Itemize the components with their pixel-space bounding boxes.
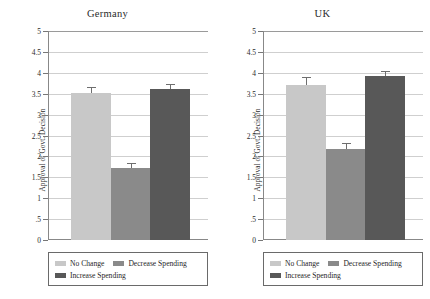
- y-tick-label: 4.5: [32, 47, 41, 56]
- panel-germany: Germany Approval of Govt. Decision 54.54…: [0, 0, 215, 299]
- legend-label: No Change: [70, 259, 104, 268]
- legend-row: No Change Decrease Spending: [270, 257, 416, 269]
- bar: [286, 85, 326, 240]
- y-tick-label: 3: [252, 110, 256, 119]
- panel-uk: UK Approval of Govt. Decision 54.543.532…: [215, 0, 430, 299]
- legend-label: Increase Spending: [285, 271, 341, 280]
- y-tick-label: 1: [37, 194, 41, 203]
- legend-swatch-icon: [270, 261, 281, 266]
- error-bar-cap: [302, 77, 311, 78]
- error-bar-cap: [87, 87, 96, 88]
- y-tick-label: 1.5: [247, 173, 256, 182]
- gridline: [263, 52, 423, 53]
- two-panel-bar-chart: Germany Approval of Govt. Decision 54.54…: [0, 0, 430, 299]
- gridline: [48, 31, 208, 32]
- y-tick-mark: [43, 240, 48, 241]
- bar: [111, 168, 151, 240]
- panel-title: Germany: [0, 8, 215, 19]
- legend-row: No Change Decrease Spending: [55, 257, 201, 269]
- plot-area: 54.543.532.521.51.50: [48, 31, 208, 240]
- error-bar-cap: [166, 84, 175, 85]
- legend-item: No Change: [270, 259, 319, 268]
- legend-item: No Change: [55, 259, 104, 268]
- legend-swatch-icon: [113, 261, 124, 266]
- error-bar: [306, 77, 307, 85]
- y-tick-label: 4: [37, 68, 41, 77]
- legend-label: Decrease Spending: [343, 259, 401, 268]
- gridline: [263, 31, 423, 32]
- gridline: [263, 73, 423, 74]
- legend-label: Decrease Spending: [128, 259, 186, 268]
- panel-title: UK: [215, 8, 430, 19]
- y-tick-label: 3: [37, 110, 41, 119]
- y-tick-mark: [258, 240, 263, 241]
- y-tick-label: .5: [35, 215, 41, 224]
- y-tick-label: 0: [252, 236, 256, 245]
- legend-label: No Change: [285, 259, 319, 268]
- error-bar-cap: [127, 163, 136, 164]
- legend-label: Increase Spending: [70, 271, 126, 280]
- y-tick-label: 1.5: [32, 173, 41, 182]
- legend-row: Increase Spending: [55, 269, 201, 281]
- y-axis-line: [48, 31, 49, 240]
- error-bar-cap: [381, 71, 390, 72]
- y-tick-label: 4: [252, 68, 256, 77]
- legend-item: Increase Spending: [55, 271, 126, 280]
- y-tick-label: 0: [37, 236, 41, 245]
- legend: No Change Decrease Spending Increase Spe…: [48, 252, 208, 286]
- legend-swatch-icon: [270, 273, 281, 278]
- legend-swatch-icon: [55, 261, 66, 266]
- legend-swatch-icon: [55, 273, 66, 278]
- y-tick-label: 1: [252, 194, 256, 203]
- plot-area: 54.543.532.521.51.50: [263, 31, 423, 240]
- legend-swatch-icon: [328, 261, 339, 266]
- y-tick-label: 2.5: [247, 131, 256, 140]
- y-tick-label: .5: [250, 215, 256, 224]
- bar: [150, 89, 190, 240]
- bar: [71, 93, 111, 240]
- legend-row: Increase Spending: [270, 269, 416, 281]
- y-tick-label: 4.5: [247, 47, 256, 56]
- bar: [326, 149, 366, 240]
- bar: [365, 76, 405, 240]
- y-tick-label: 5: [37, 27, 41, 36]
- gridline: [48, 52, 208, 53]
- y-tick-label: 3.5: [247, 89, 256, 98]
- error-bar-cap: [342, 143, 351, 144]
- gridline: [48, 73, 208, 74]
- y-tick-label: 2: [252, 152, 256, 161]
- legend-item: Decrease Spending: [113, 259, 186, 268]
- y-tick-label: 3.5: [32, 89, 41, 98]
- y-tick-label: 2.5: [32, 131, 41, 140]
- y-tick-label: 5: [252, 27, 256, 36]
- legend: No Change Decrease Spending Increase Spe…: [263, 252, 423, 286]
- y-axis-line: [263, 31, 264, 240]
- legend-item: Increase Spending: [270, 271, 341, 280]
- legend-item: Decrease Spending: [328, 259, 401, 268]
- y-tick-label: 2: [37, 152, 41, 161]
